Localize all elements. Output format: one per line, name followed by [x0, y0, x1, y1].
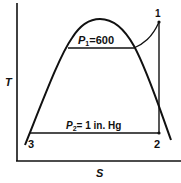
- x-axis-label: S: [96, 167, 104, 179]
- p1-label: P1=600: [78, 34, 114, 47]
- p2-value: = 1 in. Hg: [77, 120, 122, 131]
- point-1-marker: [157, 20, 160, 23]
- superheat-curve: [134, 22, 159, 48]
- point-2-marker: [157, 131, 160, 134]
- point-3-label: 3: [28, 138, 34, 150]
- point-1-label: 1: [155, 8, 161, 19]
- point-2-label: 2: [154, 138, 160, 150]
- y-axis-label: T: [5, 76, 13, 88]
- p1-value: =600: [89, 34, 114, 46]
- ts-diagram: 1 2 3 T S P1=600 P2= 1 in. Hg: [0, 0, 181, 183]
- p2-label: P2= 1 in. Hg: [66, 120, 121, 132]
